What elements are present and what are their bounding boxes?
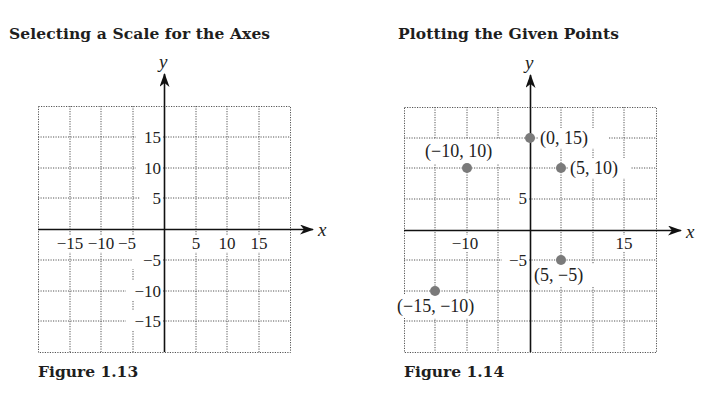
left-y-tick-neg15: −15 <box>134 312 161 331</box>
right-y-tick-neg5: −5 <box>509 251 527 270</box>
right-y-axis-label: y <box>523 52 534 73</box>
point-neg10-10 <box>462 163 472 173</box>
left-y-tick-5: 5 <box>153 189 162 208</box>
left-x-tick-15: 15 <box>251 234 268 253</box>
point-label-neg15-neg10: (−15, −10) <box>397 296 474 317</box>
left-figure-caption: Figure 1.13 <box>38 362 138 381</box>
point-label-neg10-10: (−10, 10) <box>425 141 492 162</box>
figures-canvas: y x 15 10 5 −5 −10 −15 −15 −10 −5 5 10 1… <box>0 0 727 403</box>
point-0-15 <box>525 133 535 143</box>
point-label-5-10: (5, 10) <box>570 158 618 179</box>
right-x-tick-neg10: −10 <box>452 234 479 253</box>
left-x-tick-10: 10 <box>219 234 236 253</box>
left-y-tick-neg10: −10 <box>134 282 161 301</box>
right-x-tick-15: 15 <box>616 234 633 253</box>
right-chart: y x 5 −5 −10 15 (−10, 10) (0, 15) (5, 10… <box>396 52 695 353</box>
left-x-tick-neg10: −10 <box>88 234 115 253</box>
left-y-axis-label: y <box>157 51 168 72</box>
point-5-neg5 <box>556 255 566 265</box>
point-neg15-neg10 <box>430 286 440 296</box>
right-y-tick-5: 5 <box>519 189 528 208</box>
left-x-tick-5: 5 <box>192 234 201 253</box>
point-label-0-15: (0, 15) <box>540 128 588 149</box>
left-x-axis-label: x <box>317 219 327 240</box>
left-y-tick-10: 10 <box>144 159 161 178</box>
left-y-tick-15: 15 <box>144 128 161 147</box>
right-x-axis-label: x <box>685 221 695 242</box>
left-chart: y x 15 10 5 −5 −10 −15 −15 −10 −5 5 10 1… <box>38 51 327 353</box>
left-y-tick-neg5: −5 <box>143 251 161 270</box>
left-x-tick-neg5: −5 <box>118 234 136 253</box>
right-figure-caption: Figure 1.14 <box>404 362 504 381</box>
left-x-tick-neg15: −15 <box>57 234 84 253</box>
point-label-5-neg5: (5, −5) <box>534 265 583 286</box>
point-5-10 <box>556 163 566 173</box>
